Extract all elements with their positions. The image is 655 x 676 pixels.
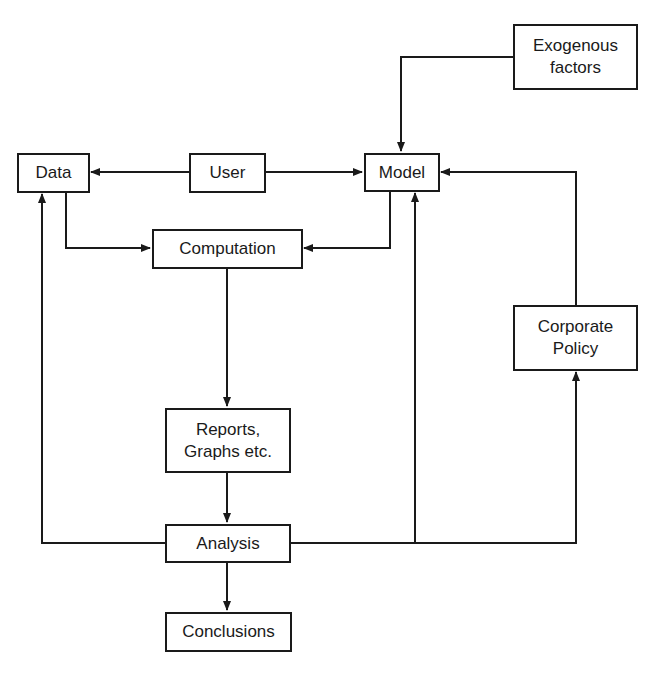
node-reports: Reports, Graphs etc. xyxy=(165,408,291,473)
node-policy-label: Corporate Policy xyxy=(538,316,614,360)
edge-exogenous-to-model xyxy=(401,57,513,151)
node-computation-label: Computation xyxy=(179,238,275,260)
node-computation: Computation xyxy=(152,229,303,269)
edge-analysis-to-model xyxy=(290,193,415,543)
edge-analysis-to-policy xyxy=(415,372,576,543)
node-analysis: Analysis xyxy=(165,524,291,563)
node-conclusions: Conclusions xyxy=(165,612,292,652)
node-exogenous-factors: Exogenous factors xyxy=(513,24,638,90)
node-model: Model xyxy=(364,153,440,192)
edge-analysis-to-data xyxy=(42,194,165,543)
node-model-label: Model xyxy=(379,162,425,184)
node-data: Data xyxy=(17,153,90,193)
node-user: User xyxy=(189,153,266,193)
edge-data-to-computation xyxy=(66,192,150,248)
node-user-label: User xyxy=(210,162,246,184)
node-exogenous-label: Exogenous factors xyxy=(533,35,618,79)
node-reports-label: Reports, Graphs etc. xyxy=(184,419,272,463)
edge-policy-to-model xyxy=(441,172,576,305)
node-corporate-policy: Corporate Policy xyxy=(513,305,638,371)
node-analysis-label: Analysis xyxy=(196,533,259,555)
node-data-label: Data xyxy=(36,162,72,184)
node-conclusions-label: Conclusions xyxy=(182,621,275,643)
edge-model-to-computation xyxy=(304,191,390,248)
